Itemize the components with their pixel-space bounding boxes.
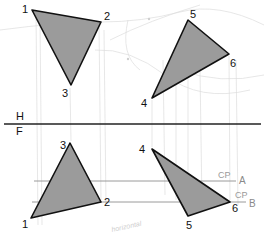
vertex-label-2-top: 2 [104, 10, 110, 22]
construction-point [127, 58, 129, 60]
cutting-plane-label-cp-b: CP [235, 190, 248, 200]
construction-point [148, 18, 150, 20]
vertex-label-1-front: 1 [22, 218, 28, 230]
vertex-label-4-top: 4 [141, 97, 147, 109]
vertex-label-5-top: 5 [190, 8, 196, 20]
plane-label-h: H [16, 110, 24, 122]
vertex-label-3-front: 3 [60, 139, 66, 151]
vertex-label-4-front: 4 [139, 143, 145, 155]
vertex-label-6-top: 6 [230, 57, 236, 69]
vertex-label-2-front: 2 [104, 196, 110, 208]
triangle-123-top-view [32, 10, 101, 85]
cutting-plane-label-a: A [239, 175, 246, 186]
triangle-456-front-view [152, 149, 230, 216]
cutting-plane-label-cp-a: CP [218, 170, 231, 180]
annotation-horizontal: horizontal [111, 220, 143, 233]
plane-label-f: F [16, 125, 23, 137]
triangle-456-top-view [152, 20, 229, 98]
vertex-label-6-front: 6 [232, 202, 238, 214]
projection-diagram: 1 2 3 4 5 6 H F 1 2 3 4 5 6 CP A CP B ho… [0, 0, 264, 239]
vertex-label-1-top: 1 [22, 3, 28, 15]
vertex-label-3-top: 3 [62, 87, 68, 99]
vertex-label-5-front: 5 [186, 219, 192, 231]
cutting-plane-label-b: B [249, 198, 256, 209]
construction-lines [0, 5, 264, 225]
